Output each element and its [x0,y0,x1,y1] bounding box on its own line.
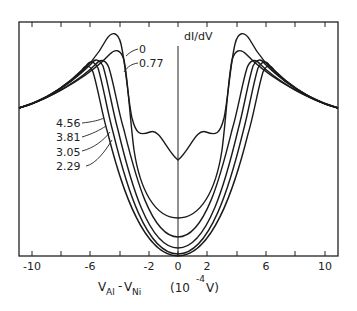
y-axis-label: dI/dV [184,30,213,43]
x-axis-label: V Al - V Ni (10 -4 V) [98,274,219,297]
svg-text:-2: -2 [144,260,155,273]
x-tick-labels: -10 -6 -2 0 2 6 10 [23,260,332,273]
svg-text:-10: -10 [23,260,41,273]
svg-text:V): V) [206,281,219,295]
label-4.56: 4.56 [56,117,81,130]
svg-text:0: 0 [175,260,182,273]
label-3.05: 3.05 [56,146,81,159]
svg-text:10: 10 [318,260,332,273]
svg-text:-: - [118,279,122,293]
svg-text:Al: Al [106,287,115,297]
label-2.29: 2.29 [56,160,81,173]
series-labels: 0 0.77 4.56 3.81 3.05 2.29 [56,43,164,173]
svg-text:(10: (10 [170,281,190,295]
svg-text:2: 2 [204,260,211,273]
label-3.81: 3.81 [56,131,81,144]
svg-text:Ni: Ni [132,287,141,297]
label-0: 0 [139,43,146,56]
label-0.77: 0.77 [139,57,164,70]
dIdV-chart: 0 0.77 4.56 3.81 3.05 2.29 dI/dV -10 -6 … [0,0,357,311]
svg-text:-6: -6 [85,260,96,273]
svg-text:-4: -4 [196,274,205,284]
svg-text:6: 6 [263,260,270,273]
